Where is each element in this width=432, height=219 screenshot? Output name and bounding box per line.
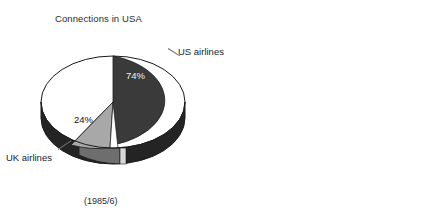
pie-chart-london: Connections in London US airlines UK air… (216, 0, 432, 219)
pie-chart-usa: Connections in USA US airlines UK airlin… (0, 0, 216, 219)
value-label-us-airlines-usa: 74% (126, 70, 145, 81)
series-label-uk-airlines-usa: UK airlines (6, 152, 52, 163)
chart-caption-usa: (1985/6) (84, 196, 118, 206)
pie-side-wall-other-usa (120, 148, 126, 164)
chart-title-usa: Connections in USA (55, 13, 142, 24)
value-label-uk-airlines-usa: 24% (74, 114, 93, 125)
figure-canvas: Connections in USA US airlines UK airlin… (0, 0, 432, 219)
